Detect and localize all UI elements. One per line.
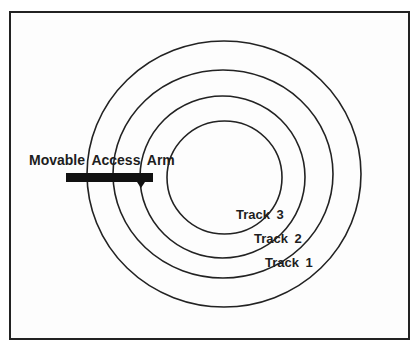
disk-diagram (0, 0, 418, 342)
track-3-label: Track 3 (236, 208, 284, 221)
access-arm-bar (66, 173, 153, 182)
track-1-label: Track 1 (265, 256, 313, 269)
read-head-pointer (137, 182, 145, 188)
track-2-label: Track 2 (254, 232, 302, 245)
access-arm-label: Movable Access Arm (29, 153, 175, 167)
